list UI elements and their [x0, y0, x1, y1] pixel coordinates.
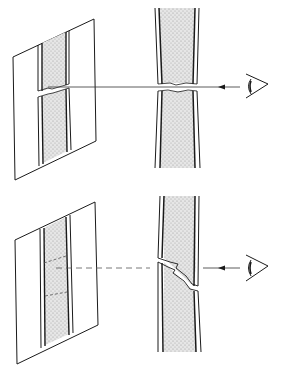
- eye-icon: [246, 255, 268, 281]
- eye-icon: [246, 74, 268, 98]
- projection-plate-top: [13, 19, 96, 180]
- projection-plate-bottom: [15, 202, 98, 364]
- tube-segment-top: [155, 8, 200, 168]
- arrowhead-icon: [218, 266, 225, 271]
- arrowhead-icon: [218, 85, 225, 90]
- tube-segment-bottom: [158, 196, 201, 352]
- diagram-canvas: [0, 0, 281, 372]
- top-panel: [13, 8, 268, 180]
- bottom-panel: [15, 196, 268, 364]
